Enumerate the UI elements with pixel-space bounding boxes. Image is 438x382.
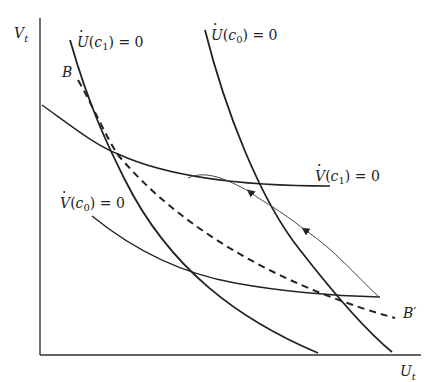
phase-diagram: Vt Ut U(c1) = 0 · U(c0) = 0 · V(c1) = 0 … bbox=[0, 0, 438, 382]
u-dot-c0-dot: · bbox=[213, 16, 217, 32]
v-dot-c0-dot: · bbox=[62, 184, 66, 200]
u-dot-c1-label: U(c1) = 0 bbox=[77, 34, 144, 52]
v-dot-c0-curve bbox=[92, 216, 380, 297]
u-dot-c0-label: U(c0) = 0 bbox=[211, 27, 278, 45]
dashed-saddle-path bbox=[78, 80, 395, 318]
trajectory-path-segment bbox=[250, 192, 305, 230]
v-dot-c0-label: V(c0) = 0 bbox=[60, 195, 125, 213]
y-axis-label: Vt bbox=[14, 25, 29, 44]
u-dot-c1-dot: · bbox=[79, 23, 83, 39]
b-prime-label: B′ bbox=[402, 305, 417, 321]
v-dot-c1-label: V(c1) = 0 bbox=[315, 168, 380, 186]
trajectory-path bbox=[305, 230, 378, 296]
v-dot-c1-dot: · bbox=[317, 157, 321, 173]
u-dot-c0-curve bbox=[205, 30, 392, 352]
b-label: B bbox=[61, 64, 72, 80]
trajectory-path-segment bbox=[188, 175, 250, 192]
v-dot-c1-curve bbox=[42, 105, 330, 186]
x-axis-label: Ut bbox=[400, 363, 417, 382]
